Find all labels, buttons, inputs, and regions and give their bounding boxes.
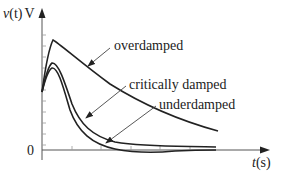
y-axis-arrow-icon (39, 8, 46, 18)
underdamped-label: underdamped (159, 97, 235, 112)
overdamped-arrow-icon (88, 48, 110, 66)
critically-damped-label: critically damped (129, 77, 227, 92)
origin-label: 0 (27, 143, 34, 158)
overdamped-label: overdamped (114, 38, 183, 53)
damping-response-diagram: overdamped critically damped underdamped… (0, 0, 281, 176)
underdamped-arrow-icon (106, 106, 156, 143)
x-axis-label: t(s) (252, 155, 271, 171)
y-axis-label: v(t)V (3, 6, 35, 22)
x-axis-arrow-icon (260, 147, 270, 154)
critically-damped-arrow-icon (86, 86, 126, 118)
